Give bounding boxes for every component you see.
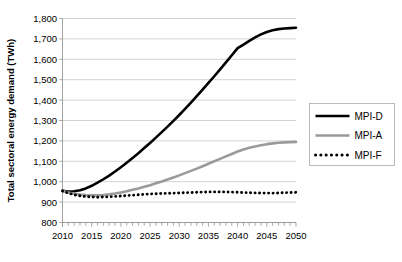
chart-legend: MPI-DMPI-AMPI-F — [310, 104, 395, 166]
x-axis-tick-label: 2010 — [52, 230, 73, 241]
x-axis-tick-labels: 201020152020202520302035204020452050 — [52, 230, 307, 241]
x-axis-tick-label: 2020 — [110, 230, 131, 241]
x-axis-tick-label: 2050 — [285, 230, 306, 241]
y-axis-tick-label: 1,600 — [33, 54, 57, 65]
x-axis-tick-label: 2035 — [198, 230, 219, 241]
y-axis-tick-label: 1,700 — [33, 33, 57, 44]
y-axis-tick-label: 800 — [41, 217, 57, 228]
line-chart: 1,8001,7001,6001,5001,4001,3001,2001,100… — [0, 0, 402, 262]
x-axis-tick-label: 2025 — [139, 230, 160, 241]
chart-figure: 1,8001,7001,6001,5001,4001,3001,2001,100… — [0, 0, 402, 262]
legend-label-mpi-d: MPI-D — [355, 111, 383, 122]
y-axis-tick-label: 900 — [41, 197, 57, 208]
y-axis-tick-label: 1,300 — [33, 115, 57, 126]
x-axis-tick-label: 2015 — [81, 230, 102, 241]
legend-label-mpi-f: MPI-F — [355, 150, 382, 161]
x-axis-tick-label: 2030 — [169, 230, 190, 241]
y-axis-tick-label: 1,400 — [33, 95, 57, 106]
legend-label-mpi-a: MPI-A — [355, 130, 383, 141]
y-axis-tick-label: 1,800 — [33, 13, 57, 24]
y-axis-tick-label: 1,100 — [33, 156, 57, 167]
y-axis-title-text: Total sectoral energy demand (TWh) — [5, 39, 16, 202]
y-axis-tick-label: 1,000 — [33, 176, 57, 187]
y-axis-tick-label: 1,500 — [33, 74, 57, 85]
x-axis-tick-label: 2040 — [227, 230, 248, 241]
y-axis-tick-label: 1,200 — [33, 135, 57, 146]
x-axis-tick-label: 2045 — [256, 230, 277, 241]
y-axis-title: Total sectoral energy demand (TWh) — [5, 39, 16, 202]
